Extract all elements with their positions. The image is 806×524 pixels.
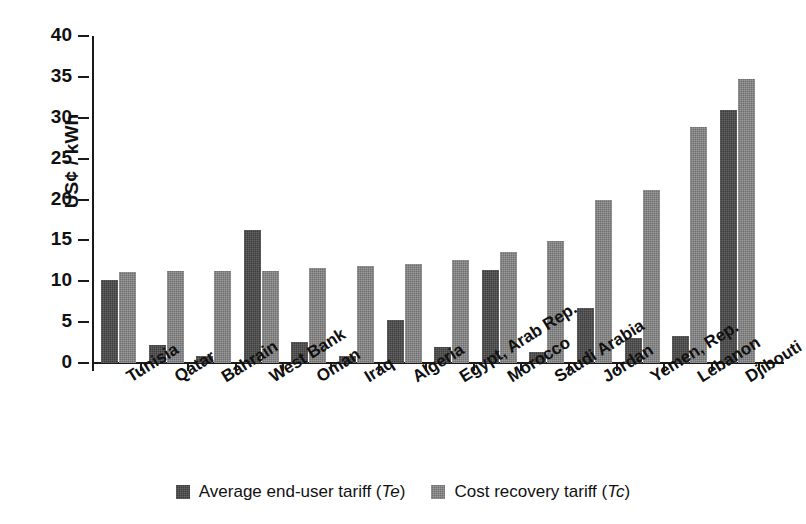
legend-swatch-icon [176, 485, 190, 499]
legend-entry-te: Average end-user tariff (Te) [176, 482, 406, 502]
y-tick-mark [78, 362, 89, 364]
bar-tc [357, 266, 374, 363]
bar-tc [119, 272, 136, 363]
y-tick-mark [78, 239, 89, 241]
bar-chart: US¢ / kWh 0510152025303540 TunisiaQatarB… [0, 0, 806, 524]
y-tick-label: 20 [28, 186, 72, 212]
y-tick-label: 30 [28, 104, 72, 130]
y-tick-mark [78, 321, 89, 323]
y-tick-label: 0 [28, 349, 72, 375]
bar-tc [405, 264, 422, 363]
chart-legend: Average end-user tariff (Te)Cost recover… [0, 482, 806, 502]
legend-label: Cost recovery tariff (Tc) [454, 482, 630, 502]
bar-tc [643, 190, 660, 363]
bar-te [244, 230, 261, 363]
legend-entry-tc: Cost recovery tariff (Tc) [431, 482, 630, 502]
bar-tc [738, 79, 755, 363]
y-axis-line [92, 36, 94, 364]
legend-swatch-icon [431, 485, 445, 499]
legend-label: Average end-user tariff (Te) [199, 482, 406, 502]
bar-tc [214, 271, 231, 363]
y-tick-mark [78, 117, 89, 119]
y-tick-mark [78, 158, 89, 160]
y-tick-mark [78, 76, 89, 78]
y-tick-label: 35 [28, 63, 72, 89]
y-tick-mark [78, 35, 89, 37]
y-tick-label: 25 [28, 145, 72, 171]
y-tick-label: 15 [28, 226, 72, 252]
bar-tc [690, 127, 707, 363]
x-tick [92, 362, 94, 371]
y-tick-mark [78, 199, 89, 201]
y-tick-label: 10 [28, 267, 72, 293]
bar-te [101, 280, 118, 363]
y-tick-label: 5 [28, 308, 72, 334]
y-tick-label: 40 [28, 22, 72, 48]
y-tick-mark [78, 280, 89, 282]
